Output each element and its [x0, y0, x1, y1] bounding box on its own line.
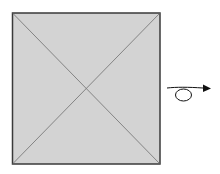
- diagram-canvas: [0, 0, 220, 174]
- loop-arrow-icon: [167, 85, 211, 102]
